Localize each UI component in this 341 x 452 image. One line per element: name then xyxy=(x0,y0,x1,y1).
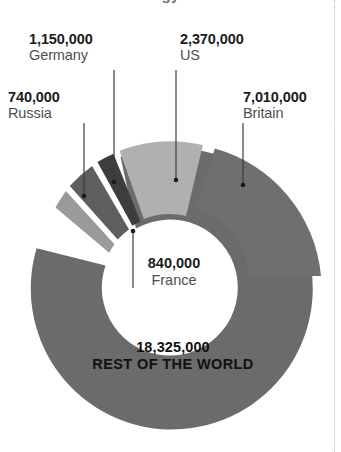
callout-britain[interactable]: 7,010,000 Britain xyxy=(243,89,307,121)
leader-dot-france xyxy=(131,229,136,234)
callout-russia-value: 740,000 xyxy=(8,89,60,105)
callout-russia[interactable]: 740,000 Russia xyxy=(8,89,60,121)
chart-canvas: gy xyxy=(0,0,341,452)
callout-germany-value: 1,150,000 xyxy=(29,31,93,47)
center-label-name: France xyxy=(128,272,220,289)
callout-us[interactable]: 2,370,000 US xyxy=(180,31,244,63)
callout-britain-value: 7,010,000 xyxy=(243,89,307,105)
rest-label-name: REST OF THE WORLD xyxy=(73,356,273,373)
rest-label-value: 18,325,000 xyxy=(73,339,273,356)
leader-dot-russia xyxy=(82,194,87,199)
callout-russia-name: Russia xyxy=(8,105,60,121)
callout-us-value: 2,370,000 xyxy=(180,31,244,47)
callout-us-name: US xyxy=(180,47,244,63)
slice-label-rest-of-the-world[interactable]: 18,325,000 REST OF THE WORLD xyxy=(73,339,273,374)
callout-germany[interactable]: 1,150,000 Germany xyxy=(29,31,93,63)
center-label-value: 840,000 xyxy=(128,255,220,272)
callout-germany-name: Germany xyxy=(29,47,93,63)
leader-dot-britain xyxy=(241,183,246,188)
leader-dot-germany xyxy=(112,180,117,185)
donut-chart xyxy=(0,0,341,452)
center-label-france[interactable]: 840,000 France xyxy=(128,255,220,289)
panel-divider xyxy=(334,0,335,452)
leader-dot-us xyxy=(174,178,179,183)
callout-britain-name: Britain xyxy=(243,105,307,121)
